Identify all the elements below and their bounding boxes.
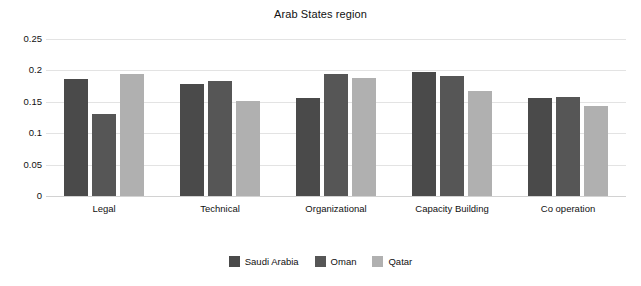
category-axis-labels: LegalTechnicalOrganizationalCapacity Bui… xyxy=(46,203,626,214)
bar[interactable] xyxy=(64,79,88,196)
y-axis-tick-label: 0.2 xyxy=(0,66,42,76)
bar-group xyxy=(278,39,394,196)
y-axis-tick-label: 0.25 xyxy=(0,34,42,44)
bar-group xyxy=(46,39,162,196)
legend-label: Saudi Arabia xyxy=(245,257,299,267)
bar[interactable] xyxy=(556,97,580,196)
y-axis-tick-label: 0.1 xyxy=(0,128,42,138)
legend-swatch-icon xyxy=(315,256,326,267)
bar[interactable] xyxy=(468,91,492,196)
bar[interactable] xyxy=(180,84,204,196)
gridline xyxy=(46,196,626,197)
bar[interactable] xyxy=(296,98,320,196)
bar[interactable] xyxy=(584,106,608,196)
y-axis-tick-label: 0.15 xyxy=(0,97,42,107)
chart-legend: Saudi ArabiaOmanQatar xyxy=(0,256,641,267)
legend-label: Oman xyxy=(331,257,357,267)
bar-group xyxy=(162,39,278,196)
bar[interactable] xyxy=(236,101,260,196)
y-axis: 0.250.20.150.10.050 xyxy=(0,39,42,196)
category-label: Co operation xyxy=(510,203,626,214)
y-axis-tick-label: 0 xyxy=(0,191,42,201)
bar[interactable] xyxy=(412,72,436,196)
bar[interactable] xyxy=(92,114,116,196)
bar[interactable] xyxy=(352,78,376,196)
bar-group xyxy=(510,39,626,196)
legend-swatch-icon xyxy=(372,256,383,267)
legend-item[interactable]: Saudi Arabia xyxy=(229,256,299,267)
bar-chart: Arab States region 0.250.20.150.10.050 L… xyxy=(0,0,641,286)
bar-groups xyxy=(46,39,626,196)
category-label: Legal xyxy=(46,203,162,214)
bar[interactable] xyxy=(440,76,464,196)
legend-swatch-icon xyxy=(229,256,240,267)
category-label: Organizational xyxy=(278,203,394,214)
bar-group xyxy=(394,39,510,196)
legend-item[interactable]: Qatar xyxy=(372,256,412,267)
y-axis-tick-label: 0.05 xyxy=(0,160,42,170)
legend-label: Qatar xyxy=(388,257,412,267)
category-label: Technical xyxy=(162,203,278,214)
bar[interactable] xyxy=(528,98,552,196)
bar[interactable] xyxy=(120,74,144,196)
bar[interactable] xyxy=(324,74,348,196)
category-label: Capacity Building xyxy=(394,203,510,214)
chart-title: Arab States region xyxy=(0,8,641,20)
bar[interactable] xyxy=(208,81,232,196)
legend-item[interactable]: Oman xyxy=(315,256,357,267)
